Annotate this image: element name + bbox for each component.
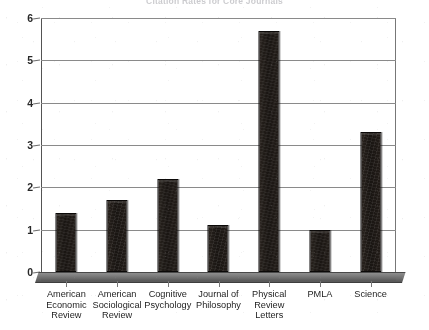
x-axis-tick <box>66 281 67 287</box>
x-axis-category-label: Science <box>340 289 402 300</box>
bar-slot <box>244 18 295 272</box>
bar-slot <box>41 18 92 272</box>
x-axis: AmericanEconomicReviewAmericanSociologic… <box>41 281 396 330</box>
x-axis-category-label-line: Science <box>340 289 402 300</box>
x-axis-tick <box>371 281 372 287</box>
x-axis-tick <box>117 281 118 287</box>
x-axis-tick <box>269 281 270 287</box>
bar <box>56 213 77 272</box>
bar <box>309 230 330 272</box>
x-axis-tick <box>320 281 321 287</box>
x-axis-tick <box>219 281 220 287</box>
bar <box>157 179 178 272</box>
bar-slot <box>142 18 193 272</box>
y-axis-tick-label: 6 <box>27 12 33 24</box>
y-axis-tick-label: 2 <box>27 181 33 193</box>
bar-series <box>41 18 396 272</box>
bar-slot <box>92 18 143 272</box>
x-axis-tick <box>168 281 169 287</box>
bar-slot <box>295 18 346 272</box>
x-axis-category-label-line: Review <box>238 300 300 311</box>
y-axis-tick-label: 4 <box>27 97 33 109</box>
bar <box>107 200 128 272</box>
y-axis-tick-label: 3 <box>27 139 33 151</box>
chart-title: Citation Rates for Core Journals <box>0 0 429 5</box>
chart-figure: Citation Rates for Core Journals 0123456… <box>0 0 429 330</box>
bar-slot <box>345 18 396 272</box>
bar <box>208 225 229 272</box>
y-axis-tick-label: 5 <box>27 54 33 66</box>
y-axis-tick-label: 1 <box>27 224 33 236</box>
plot-area: 0123456 <box>41 18 396 272</box>
x-axis-category-label-line: Review <box>86 310 148 321</box>
x-axis-category-label-line: Letters <box>238 310 300 321</box>
y-axis-tick-label: 0 <box>27 266 33 278</box>
bar-slot <box>193 18 244 272</box>
bar <box>259 31 280 272</box>
bar <box>360 132 381 272</box>
